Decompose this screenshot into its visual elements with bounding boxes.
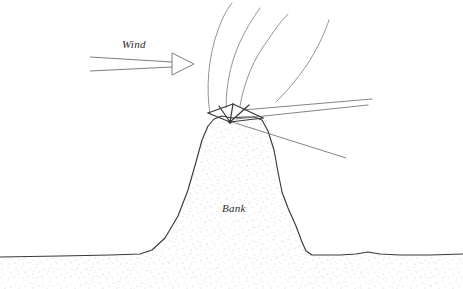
wind-arrow-head <box>172 53 194 75</box>
streamline-1 <box>208 3 232 114</box>
wind-over-bank-diagram: Wind Bank <box>0 0 463 289</box>
crest-vertex <box>228 120 231 123</box>
wind-streamlines <box>208 3 329 114</box>
bank-stipple-texture-overlay <box>0 100 463 289</box>
bank-body <box>0 100 463 289</box>
ray-middle <box>236 105 368 119</box>
bank-label: Bank <box>222 202 247 214</box>
chord-left <box>208 104 233 113</box>
wind-arrow <box>90 53 194 75</box>
streamline-4 <box>276 20 329 102</box>
wind-arrow-shaft <box>90 57 172 71</box>
wind-label: Wind <box>122 38 146 50</box>
ray-upper <box>243 99 372 110</box>
